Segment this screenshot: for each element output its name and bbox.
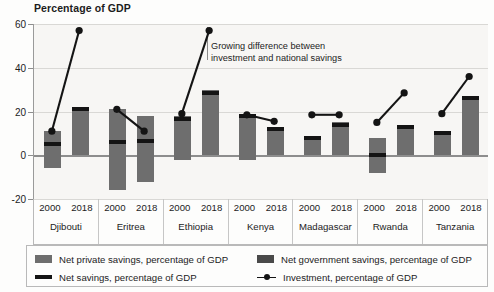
x-axis-country-label-eritrea: Eritrea	[117, 221, 145, 232]
annotation-line-2: investment and national savings	[211, 52, 411, 64]
net-savings-marker-5	[202, 91, 219, 95]
private-swatch-icon	[35, 255, 52, 263]
chart-legend: Net private savings, percentage of GDP N…	[26, 245, 488, 287]
x-axis-country-label-tanzania: Tanzania	[436, 221, 474, 232]
gridline-60	[34, 24, 488, 25]
x-axis-group-ethiopia: 20002018Ethiopia	[164, 199, 229, 244]
investment-swatch-icon	[257, 273, 276, 282]
legend-label-government: Net government savings, percentage of GD…	[281, 254, 472, 265]
x-axis-group-rwanda: 20002018Rwanda	[358, 199, 423, 244]
bar-madagascar-2018	[332, 122, 349, 155]
x-tick-ethiopia-2000: 2000	[169, 202, 190, 213]
x-axis-country-label-ethiopia: Ethiopia	[178, 221, 213, 232]
net-savings-marker-0	[44, 142, 61, 146]
bar-kenya-2018	[267, 127, 284, 155]
x-tick-eritrea-2000: 2000	[104, 202, 125, 213]
net-savings-marker-9	[332, 123, 349, 127]
net-savings-marker-10	[369, 153, 386, 157]
x-tick-madagascar-2000: 2000	[299, 202, 320, 213]
x-axis-country-label-kenya: Kenya	[247, 221, 274, 232]
y-tick-label--20: -20	[0, 194, 26, 205]
y-axis-title: Percentage of GDP	[34, 2, 131, 14]
bar-kenya-2000	[239, 114, 256, 160]
x-axis-group-kenya: 20002018Kenya	[229, 199, 294, 244]
x-axis: 20002018Djibouti20002018Eritrea20002018E…	[33, 199, 488, 245]
legend-row-2: Net savings, percentage of GDP Investmen…	[35, 268, 479, 286]
x-tick-eritrea-2018: 2018	[136, 202, 157, 213]
x-tick-djibouti-2000: 2000	[39, 202, 60, 213]
bar-ethiopia-2018	[202, 90, 219, 156]
legend-item-investment: Investment, percentage of GDP	[257, 272, 479, 283]
legend-item-government: Net government savings, percentage of GD…	[257, 254, 479, 265]
net-savings-marker-1	[72, 107, 89, 111]
bar-eritrea-2018	[137, 116, 154, 182]
x-tick-rwanda-2018: 2018	[396, 202, 417, 213]
x-axis-group-tanzania: 20002018Tanzania	[423, 199, 487, 244]
bar-eritrea-2000	[109, 109, 126, 190]
x-axis-country-label-djibouti: Djibouti	[50, 221, 82, 232]
bar-tanzania-2018	[462, 96, 479, 155]
net-savings-marker-8	[304, 136, 321, 140]
chart-annotation: Growing difference between investment an…	[211, 40, 411, 65]
y-tick-mark-40	[28, 68, 33, 69]
net-savings-marker-2	[109, 140, 126, 144]
y-tick-mark-60	[28, 24, 33, 25]
legend-label-net-savings: Net savings, percentage of GDP	[59, 272, 197, 283]
x-tick-madagascar-2018: 2018	[331, 202, 352, 213]
bar-rwanda-2018	[397, 125, 414, 156]
y-tick-label-20: 20	[0, 106, 26, 117]
zero-line	[34, 155, 488, 156]
gridline-20	[34, 112, 488, 113]
x-tick-kenya-2000: 2000	[234, 202, 255, 213]
government-swatch-icon	[257, 255, 274, 263]
legend-item-net-savings: Net savings, percentage of GDP	[35, 272, 257, 283]
y-tick-mark-0	[28, 155, 33, 156]
net-savings-marker-11	[397, 125, 414, 129]
legend-row-1: Net private savings, percentage of GDP N…	[35, 250, 479, 268]
x-axis-group-madagascar: 20002018Madagascar	[293, 199, 358, 244]
y-tick-mark-20	[28, 112, 33, 113]
legend-label-private: Net private savings, percentage of GDP	[59, 254, 228, 265]
net-savings-marker-3	[137, 139, 154, 143]
y-tick-label-0: 0	[0, 150, 26, 161]
annotation-line-1: Growing difference between	[211, 40, 411, 52]
legend-item-private: Net private savings, percentage of GDP	[35, 254, 257, 265]
x-tick-djibouti-2018: 2018	[71, 202, 92, 213]
net-savings-marker-4	[174, 117, 191, 121]
bar-djibouti-2000	[44, 131, 61, 168]
net-savings-marker-13	[462, 96, 479, 100]
net-savings-marker-12	[434, 131, 451, 135]
net-savings-marker-6	[239, 114, 256, 118]
x-tick-ethiopia-2018: 2018	[201, 202, 222, 213]
net-savings-swatch-icon	[35, 275, 52, 279]
x-axis-group-djibouti: 20002018Djibouti	[34, 199, 99, 244]
chart-canvas: Percentage of GDP -200204060 Growing dif…	[0, 0, 494, 292]
x-tick-tanzania-2000: 2000	[428, 202, 449, 213]
x-tick-tanzania-2018: 2018	[460, 202, 481, 213]
x-tick-kenya-2018: 2018	[266, 202, 287, 213]
y-tick-label-40: 40	[0, 62, 26, 73]
bar-ethiopia-2000	[174, 116, 191, 160]
bar-djibouti-2018	[72, 107, 89, 155]
legend-label-investment: Investment, percentage of GDP	[283, 272, 417, 283]
annotation-leader-line	[207, 27, 208, 60]
net-savings-marker-7	[267, 127, 284, 131]
y-tick-label-60: 60	[0, 19, 26, 30]
x-axis-country-label-madagascar: Madagascar	[299, 221, 352, 232]
x-axis-country-label-rwanda: Rwanda	[373, 221, 408, 232]
x-tick-rwanda-2000: 2000	[364, 202, 385, 213]
gridline-40	[34, 68, 488, 69]
x-axis-group-eritrea: 20002018Eritrea	[99, 199, 164, 244]
